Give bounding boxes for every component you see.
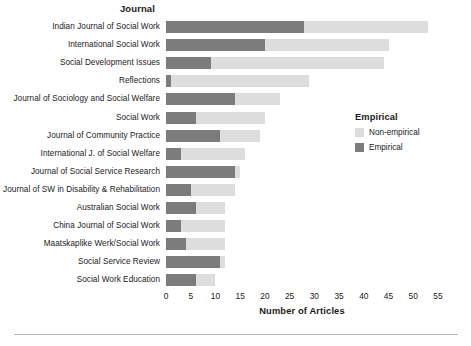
bar-segment-non-empirical[interactable] (191, 184, 236, 196)
bar-row: Social Work Education (166, 271, 438, 289)
bar-segment-empirical[interactable] (166, 256, 220, 268)
bar-segment-non-empirical[interactable] (181, 220, 226, 232)
category-label: International Social Work (0, 36, 160, 54)
stacked-bar[interactable] (166, 256, 225, 268)
bar-row: Reflections (166, 72, 438, 90)
stacked-bar[interactable] (166, 166, 240, 178)
bar-row: Maatskaplike Werk/Social Work (166, 235, 438, 253)
x-axis-title: Number of Articles (166, 306, 438, 316)
stacked-bar[interactable] (166, 148, 245, 160)
bar-segment-non-empirical[interactable] (196, 112, 265, 124)
bar-row: Social Service Review (166, 253, 438, 271)
stacked-bar[interactable] (166, 21, 428, 33)
bar-segment-empirical[interactable] (166, 21, 304, 33)
x-tick-label: 45 (384, 291, 393, 301)
bar-segment-non-empirical[interactable] (265, 39, 389, 51)
x-tick-label: 30 (310, 291, 319, 301)
x-tick-label: 15 (236, 291, 245, 301)
bottom-divider (14, 334, 458, 335)
stacked-bar-chart: Journal Indian Journal of Social WorkInt… (0, 0, 471, 346)
x-tick-label: 55 (433, 291, 442, 301)
category-label: Indian Journal of Social Work (0, 18, 160, 36)
category-label: Social Work Education (0, 271, 160, 289)
x-tick-label: 35 (334, 291, 343, 301)
bar-segment-non-empirical[interactable] (196, 202, 226, 214)
bar-segment-non-empirical[interactable] (196, 274, 216, 286)
bar-segment-empirical[interactable] (166, 148, 181, 160)
bar-segment-empirical[interactable] (166, 130, 220, 142)
bar-row: Indian Journal of Social Work (166, 18, 438, 36)
category-label: Journal of Community Practice (0, 127, 160, 145)
bar-segment-non-empirical[interactable] (220, 130, 260, 142)
bar-segment-empirical[interactable] (166, 57, 211, 69)
bar-segment-empirical[interactable] (166, 112, 196, 124)
legend: Empirical Non-empiricalEmpirical (355, 112, 465, 157)
bar-row: International Social Work (166, 36, 438, 54)
bar-segment-non-empirical[interactable] (211, 57, 384, 69)
category-label: Journal of SW in Disability & Rehabilita… (0, 181, 160, 199)
bar-segment-empirical[interactable] (166, 93, 235, 105)
legend-items: Non-empiricalEmpirical (355, 127, 465, 153)
bar-segment-empirical[interactable] (166, 184, 191, 196)
stacked-bar[interactable] (166, 202, 225, 214)
category-label: Reflections (0, 72, 160, 90)
category-label: China Journal of Social Work (0, 217, 160, 235)
category-label: Social Work (0, 109, 160, 127)
legend-label: Empirical (369, 143, 403, 152)
x-tick-label: 50 (409, 291, 418, 301)
bar-segment-empirical[interactable] (166, 238, 186, 250)
bar-segment-non-empirical[interactable] (181, 148, 245, 160)
stacked-bar[interactable] (166, 130, 260, 142)
stacked-bar[interactable] (166, 39, 389, 51)
stacked-bar[interactable] (166, 274, 215, 286)
bar-segment-non-empirical[interactable] (304, 21, 428, 33)
stacked-bar[interactable] (166, 238, 225, 250)
category-label: Social Development Issues (0, 54, 160, 72)
y-axis-title: Journal (0, 3, 160, 14)
bar-segment-empirical[interactable] (166, 39, 265, 51)
stacked-bar[interactable] (166, 112, 265, 124)
bar-row: Journal of SW in Disability & Rehabilita… (166, 181, 438, 199)
x-tick-label: 5 (188, 291, 193, 301)
bar-segment-empirical[interactable] (166, 274, 196, 286)
stacked-bar[interactable] (166, 57, 384, 69)
category-label: Journal of Sociology and Social Welfare (0, 90, 160, 108)
x-tick-label: 40 (359, 291, 368, 301)
category-label: International J. of Social Welfare (0, 145, 160, 163)
bar-row: Social Development Issues (166, 54, 438, 72)
x-tick-label: 10 (211, 291, 220, 301)
bar-segment-non-empirical[interactable] (186, 238, 226, 250)
legend-swatch (355, 143, 364, 152)
x-tick-label: 0 (164, 291, 169, 301)
category-label: Journal of Social Service Research (0, 163, 160, 181)
stacked-bar[interactable] (166, 75, 309, 87)
x-tick-label: 25 (285, 291, 294, 301)
legend-swatch (355, 128, 364, 137)
stacked-bar[interactable] (166, 184, 235, 196)
bar-segment-non-empirical[interactable] (171, 75, 309, 87)
category-label: Maatskaplike Werk/Social Work (0, 235, 160, 253)
bar-row: Australian Social Work (166, 199, 438, 217)
stacked-bar[interactable] (166, 93, 280, 105)
legend-label: Non-empirical (369, 128, 420, 137)
bar-segment-non-empirical[interactable] (235, 93, 280, 105)
bar-segment-empirical[interactable] (166, 202, 196, 214)
bar-segment-empirical[interactable] (166, 220, 181, 232)
bar-segment-non-empirical[interactable] (220, 256, 225, 268)
x-tick-label: 20 (260, 291, 269, 301)
bar-row: Journal of Sociology and Social Welfare (166, 90, 438, 108)
legend-item[interactable]: Non-empirical (355, 127, 465, 138)
category-label: Social Service Review (0, 253, 160, 271)
x-axis: 0510152025303540455055 (166, 289, 438, 290)
bar-segment-non-empirical[interactable] (235, 166, 240, 178)
category-label: Australian Social Work (0, 199, 160, 217)
legend-item[interactable]: Empirical (355, 142, 465, 153)
bar-segment-empirical[interactable] (166, 166, 235, 178)
bar-row: China Journal of Social Work (166, 217, 438, 235)
legend-title: Empirical (355, 112, 465, 122)
bar-row: Journal of Social Service Research (166, 163, 438, 181)
stacked-bar[interactable] (166, 220, 225, 232)
